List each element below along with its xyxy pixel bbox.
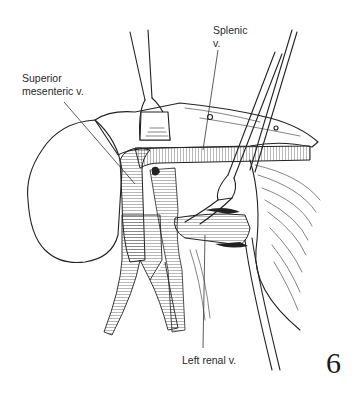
retroperitoneum xyxy=(190,160,320,330)
anatomical-figure: Splenic v. Superior mesenteric v. Left r… xyxy=(0,0,354,393)
retractor-left xyxy=(130,30,170,140)
sma-leader-line xyxy=(64,102,135,184)
label-splenic-line2: v. xyxy=(213,37,247,50)
label-left-renal-vein: Left renal v. xyxy=(182,354,236,367)
label-sma-line1: Superior xyxy=(22,72,84,85)
splenic-leader-line xyxy=(203,50,218,150)
label-sma-line2: mesenteric v. xyxy=(22,85,84,98)
label-splenic-vein: Splenic v. xyxy=(213,24,247,50)
left-renal-vein xyxy=(174,208,250,248)
illustration-drawing xyxy=(0,0,354,393)
label-splenic-line1: Splenic xyxy=(213,24,247,37)
left-renal-leader-line xyxy=(203,235,205,348)
figure-number: 6 xyxy=(326,348,341,378)
retractor-right xyxy=(185,52,282,224)
label-superior-mesenteric-vein: Superior mesenteric v. xyxy=(22,72,84,98)
pancreas-head xyxy=(28,120,122,263)
splenic-vein xyxy=(135,146,310,168)
